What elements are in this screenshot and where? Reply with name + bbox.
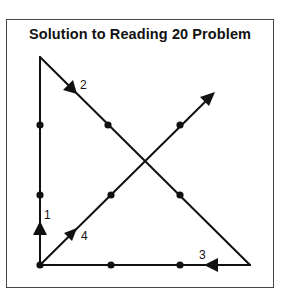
arrow-left-icon xyxy=(204,258,218,272)
dot xyxy=(36,191,43,198)
dot xyxy=(104,121,111,128)
label-1: 1 xyxy=(44,208,51,222)
nine-dot-solution-diagram: 1 2 3 4 xyxy=(0,0,286,303)
arrow-up-icon xyxy=(33,221,47,235)
dot xyxy=(107,261,114,268)
label-4: 4 xyxy=(81,229,88,243)
dot xyxy=(107,191,114,198)
dot xyxy=(176,191,183,198)
dot xyxy=(176,261,183,268)
dot xyxy=(36,261,43,268)
segment-4-line xyxy=(40,98,209,265)
label-3: 3 xyxy=(199,248,206,262)
dot xyxy=(176,121,183,128)
label-2: 2 xyxy=(80,78,87,92)
dot xyxy=(36,121,43,128)
